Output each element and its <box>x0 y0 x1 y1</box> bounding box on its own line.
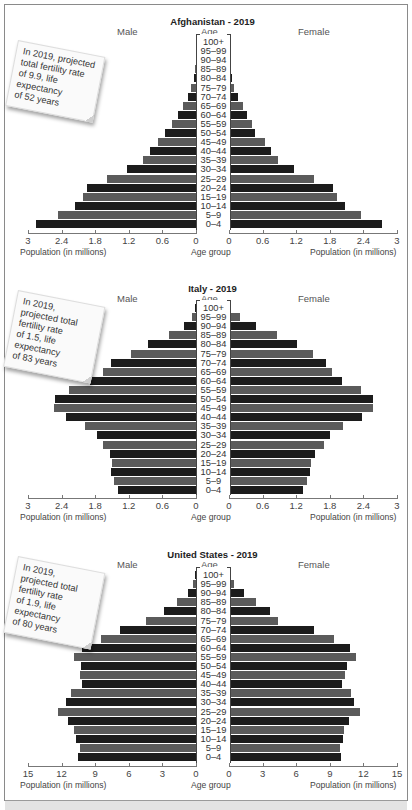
bar-female <box>229 431 330 439</box>
x-axis-left <box>28 498 196 499</box>
bar-female <box>229 441 324 449</box>
bar-male <box>78 753 196 761</box>
bar-female <box>229 662 347 670</box>
bar-male <box>183 102 196 110</box>
male-header: Male <box>117 293 138 304</box>
bar-male <box>110 450 196 458</box>
x-axis-right <box>229 766 397 767</box>
tick-label: 0 <box>184 235 208 246</box>
bar-female <box>229 459 311 467</box>
tick <box>62 763 63 767</box>
bar-female <box>229 202 345 210</box>
bar-male <box>80 744 196 752</box>
bar-female <box>229 753 341 761</box>
bottom-band <box>5 800 407 810</box>
bar-female <box>229 129 255 137</box>
x-axis-title-center: Age group <box>191 780 231 790</box>
x-axis-title-right: Population (in millions) <box>310 512 396 522</box>
tick <box>397 230 398 234</box>
bar-male <box>172 120 196 128</box>
sticky-note: In 2019,projected totalfertility rateof … <box>3 290 105 384</box>
bar-male <box>80 671 196 679</box>
bar-female <box>229 340 297 348</box>
tick <box>28 230 29 234</box>
tick <box>330 763 331 767</box>
bar-male <box>103 441 196 449</box>
tick <box>196 230 197 234</box>
bar-male <box>74 653 196 661</box>
female-header: Female <box>298 293 330 304</box>
tick-label: 0 <box>184 500 208 511</box>
bar-male <box>146 617 196 625</box>
tick-label: 0 <box>217 235 241 246</box>
bar-male <box>177 598 196 606</box>
bar-female <box>229 598 256 606</box>
tick-label: 0 <box>217 500 241 511</box>
bar-female <box>229 120 252 128</box>
tick-label: 1.8 <box>318 235 342 246</box>
bar-male <box>127 165 196 173</box>
bar-male <box>90 377 196 385</box>
bar-male <box>131 350 196 358</box>
tick-label: 0.6 <box>150 235 174 246</box>
bar-female <box>229 147 271 155</box>
bar-female <box>229 111 247 119</box>
bar-male <box>111 359 196 367</box>
bar-female <box>229 138 265 146</box>
bar-female <box>229 193 337 201</box>
bar-female <box>229 744 340 752</box>
bar-female <box>229 607 270 615</box>
bar-female <box>229 589 244 597</box>
tick <box>229 230 230 234</box>
age-group-label: 0–4 <box>197 752 230 762</box>
tick <box>296 230 297 234</box>
bar-male <box>71 689 196 697</box>
bar-male <box>75 202 196 210</box>
tick <box>363 763 364 767</box>
bar-female <box>229 359 326 367</box>
bar-female <box>229 165 294 173</box>
bar-male <box>164 607 196 615</box>
x-axis-title-right: Population (in millions) <box>310 247 396 257</box>
bar-female <box>229 717 349 725</box>
bar-male <box>101 635 196 643</box>
tick-label: 9 <box>318 768 342 779</box>
female-header: Female <box>298 559 330 570</box>
bar-male <box>118 486 196 494</box>
bar-male <box>66 698 196 706</box>
x-axis-right <box>229 498 397 499</box>
bar-male <box>58 211 196 219</box>
bar-female <box>229 671 345 679</box>
bar-female <box>229 322 256 330</box>
tick-label: 2.4 <box>50 235 74 246</box>
tick <box>229 495 230 499</box>
tick <box>263 763 264 767</box>
tick-label: 15 <box>385 768 409 779</box>
tick-label: 9 <box>83 768 107 779</box>
tick-label: 3 <box>16 235 40 246</box>
tick-label: 0.6 <box>150 500 174 511</box>
tick-label: 1.2 <box>117 500 141 511</box>
tick-label: 1.2 <box>117 235 141 246</box>
bar-male <box>158 138 196 146</box>
tick <box>397 763 398 767</box>
tick <box>162 230 163 234</box>
bar-female <box>229 404 373 412</box>
tick <box>196 763 197 767</box>
bar-male <box>165 129 196 137</box>
tick-label: 1.8 <box>318 500 342 511</box>
bar-male <box>82 680 196 688</box>
tick <box>62 495 63 499</box>
bar-male <box>54 404 196 412</box>
bar-female <box>229 698 354 706</box>
bar-male <box>55 395 196 403</box>
tick-label: 1.2 <box>284 500 308 511</box>
bar-male <box>87 184 196 192</box>
bar-female <box>229 156 278 164</box>
bar-male <box>82 644 196 652</box>
x-axis-left <box>28 233 196 234</box>
tick <box>95 230 96 234</box>
bar-female <box>229 211 361 219</box>
bar-male <box>184 322 196 330</box>
bar-female <box>229 653 356 661</box>
